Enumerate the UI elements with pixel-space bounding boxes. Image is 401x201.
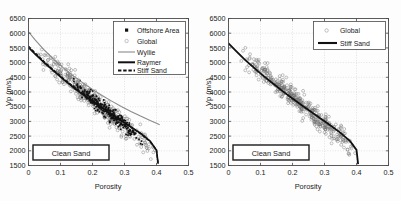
svg-text:0.1: 0.1 bbox=[56, 168, 66, 177]
svg-text:0.2: 0.2 bbox=[88, 168, 98, 177]
legend-label-wyllie: Wyllie bbox=[137, 49, 155, 57]
svg-text:5500: 5500 bbox=[10, 44, 26, 53]
svg-text:0: 0 bbox=[227, 168, 231, 177]
figure-container: 00.10.20.30.40.5150020002500300035004000… bbox=[0, 0, 401, 201]
svg-text:2500: 2500 bbox=[210, 132, 226, 141]
svg-text:0.5: 0.5 bbox=[384, 168, 394, 177]
legend-label-global: Global bbox=[137, 38, 157, 45]
right-xaxis-title: Porosity bbox=[295, 182, 322, 191]
svg-text:2500: 2500 bbox=[10, 132, 26, 141]
svg-text:6000: 6000 bbox=[10, 29, 26, 38]
right-scatter-global bbox=[240, 46, 357, 156]
right-annotation-label: Clean Sand bbox=[252, 149, 291, 158]
svg-text:6500: 6500 bbox=[210, 14, 226, 23]
left-xaxis-title: Porosity bbox=[95, 182, 122, 191]
svg-text:0.1: 0.1 bbox=[256, 168, 266, 177]
svg-text:6000: 6000 bbox=[210, 29, 226, 38]
svg-text:2000: 2000 bbox=[10, 146, 26, 155]
svg-text:3000: 3000 bbox=[210, 117, 226, 126]
left-annotation: Clean Sand bbox=[33, 145, 109, 160]
left-annotation-label: Clean Sand bbox=[52, 149, 91, 158]
svg-text:0.3: 0.3 bbox=[320, 168, 330, 177]
chart-panel-right: 00.10.20.30.40.5150020002500300035004000… bbox=[200, 0, 400, 201]
left-yaxis-title: Vp (m/s) bbox=[4, 78, 13, 106]
right-yaxis-title: Vp (m/s) bbox=[204, 78, 213, 106]
svg-text:2000: 2000 bbox=[210, 146, 226, 155]
left-legend: Offshore Area Global Wyllie Raymer Stiff… bbox=[114, 22, 186, 75]
right-annotation: Clean Sand bbox=[233, 145, 309, 160]
svg-text:6500: 6500 bbox=[10, 14, 26, 23]
right-legend: Global Stiff Sand bbox=[314, 22, 386, 50]
svg-text:0.3: 0.3 bbox=[120, 168, 130, 177]
svg-text:0: 0 bbox=[27, 168, 31, 177]
svg-text:1500: 1500 bbox=[10, 161, 26, 170]
svg-text:0.4: 0.4 bbox=[352, 168, 362, 177]
right-plot-svg: 00.10.20.30.40.5150020002500300035004000… bbox=[200, 0, 401, 201]
left-plot-svg: 00.10.20.30.40.5150020002500300035004000… bbox=[0, 0, 200, 201]
svg-text:1500: 1500 bbox=[210, 161, 226, 170]
legend-label-offshore: Offshore Area bbox=[137, 27, 180, 34]
legend-label-global: Global bbox=[340, 27, 360, 34]
svg-text:5000: 5000 bbox=[10, 58, 26, 67]
svg-text:0.2: 0.2 bbox=[288, 168, 298, 177]
svg-text:5000: 5000 bbox=[210, 58, 226, 67]
legend-marker-offshore-square-icon bbox=[125, 29, 128, 32]
svg-text:5500: 5500 bbox=[210, 44, 226, 53]
legend-label-raymer: Raymer bbox=[137, 59, 162, 67]
svg-text:3000: 3000 bbox=[10, 117, 26, 126]
legend-label-stiff-sand: Stiff Sand bbox=[340, 40, 370, 47]
svg-text:0.5: 0.5 bbox=[184, 168, 194, 177]
chart-panel-left: 00.10.20.30.40.5150020002500300035004000… bbox=[0, 0, 200, 201]
svg-text:0.4: 0.4 bbox=[152, 168, 162, 177]
legend-label-stiff-sand: Stiff Sand bbox=[137, 67, 167, 74]
